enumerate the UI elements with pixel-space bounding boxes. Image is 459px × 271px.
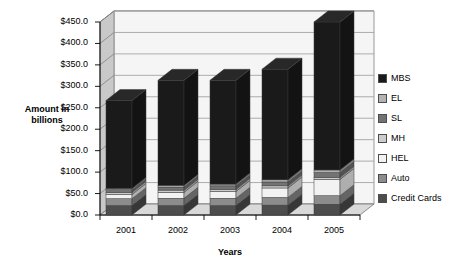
legend-swatch-icon xyxy=(378,134,387,143)
bar-segment-front xyxy=(314,179,340,195)
bar-segment-front xyxy=(314,204,340,215)
legend-item[interactable]: Auto xyxy=(378,168,458,188)
bar-segment-front xyxy=(158,190,184,192)
x-axis-tick-label: 2002 xyxy=(156,225,200,235)
legend-swatch-icon xyxy=(378,194,387,203)
legend-item[interactable]: EL xyxy=(378,88,458,108)
bar-segment-side xyxy=(184,69,198,185)
bar-segment-side xyxy=(132,89,146,188)
bar-segment-side xyxy=(236,69,250,184)
bar-segment-front xyxy=(158,198,184,205)
bar-segment-front xyxy=(314,196,340,205)
bar-segment-front xyxy=(210,186,236,189)
bar-segment-front xyxy=(106,100,132,188)
bar-segment-front xyxy=(158,185,184,187)
chart-legend: MBSELSLMHHELAutoCredit Cards xyxy=(378,68,458,208)
legend-label: Credit Cards xyxy=(391,188,442,208)
bar-segment-front xyxy=(314,170,340,173)
bar-segment-side xyxy=(340,11,354,170)
x-axis-tick-label: 2001 xyxy=(104,225,148,235)
bar-segment-front xyxy=(106,194,132,198)
bar-segment-front xyxy=(314,177,340,179)
bar-group xyxy=(314,11,354,215)
legend-item[interactable]: MH xyxy=(378,128,458,148)
x-axis-tick-label: 2005 xyxy=(312,225,356,235)
bar-group xyxy=(262,58,302,215)
legend-label: HEL xyxy=(391,148,409,168)
legend-swatch-icon xyxy=(378,94,387,103)
bar-group xyxy=(210,69,250,215)
bar-segment-front xyxy=(158,192,184,198)
bar-segment-front xyxy=(210,80,236,184)
legend-swatch-icon xyxy=(378,114,387,123)
bar-segment-front xyxy=(158,80,184,185)
bar-segment-front xyxy=(210,206,236,215)
bar-segment-front xyxy=(262,197,288,205)
bar-segment-front xyxy=(262,182,288,186)
bar-segment-side xyxy=(288,58,302,180)
legend-item[interactable]: Credit Cards xyxy=(378,188,458,208)
bar-segment-front xyxy=(262,205,288,215)
legend-swatch-icon xyxy=(378,174,387,183)
bar-segment-front xyxy=(210,191,236,198)
x-axis-tick-label: 2004 xyxy=(260,225,304,235)
bar-segment-front xyxy=(106,192,132,194)
bar-segment-front xyxy=(158,206,184,215)
legend-label: SL xyxy=(391,108,402,128)
bar-segment-front xyxy=(210,184,236,186)
bar-group xyxy=(158,69,198,215)
legend-item[interactable]: HEL xyxy=(378,148,458,168)
bar-segment-front xyxy=(262,69,288,180)
bar-segment-front xyxy=(262,180,288,182)
stacked-bar-chart: Amount in billions $0.0$50.0$100.0$150.0… xyxy=(0,0,459,271)
bar-segment-front xyxy=(314,173,340,178)
bar-segment-front xyxy=(210,189,236,191)
bar-segment-front xyxy=(158,187,184,190)
bar-segment-front xyxy=(210,198,236,205)
legend-label: MH xyxy=(391,128,405,148)
x-axis-tick-label: 2003 xyxy=(208,225,252,235)
bar-segment-front xyxy=(262,186,288,188)
bar-segment-front xyxy=(106,206,132,215)
legend-swatch-icon xyxy=(378,154,387,163)
bar-group xyxy=(106,89,146,215)
legend-label: MBS xyxy=(391,68,411,88)
bar-segment-front xyxy=(262,188,288,197)
x-axis-title: Years xyxy=(110,247,350,257)
legend-item[interactable]: MBS xyxy=(378,68,458,88)
legend-label: Auto xyxy=(391,168,410,188)
legend-item[interactable]: SL xyxy=(378,108,458,128)
legend-swatch-icon xyxy=(378,74,387,83)
legend-label: EL xyxy=(391,88,402,108)
bar-segment-front xyxy=(314,22,340,170)
bar-segment-front xyxy=(106,199,132,206)
bar-segment-front xyxy=(106,190,132,193)
